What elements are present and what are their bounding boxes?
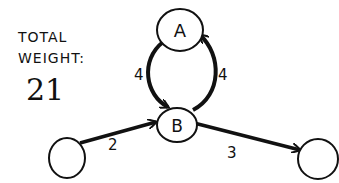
edge-weight-b-right: 3	[227, 144, 237, 162]
node-left	[49, 138, 85, 178]
total-weight-value: 21	[26, 72, 64, 107]
edge-weight-a-b: 4	[134, 66, 144, 84]
edge-weight-left-b: 2	[108, 136, 118, 154]
node-b: B	[157, 108, 197, 142]
edge-left-to-b	[80, 122, 156, 143]
graph-diagram: TOTAL WEIGHT: 21 4 4 2 3 A B	[0, 0, 339, 183]
edge-b-to-a	[193, 35, 216, 110]
edge-b-to-right	[194, 123, 300, 150]
node-right	[298, 139, 338, 179]
node-a-label: A	[174, 20, 187, 41]
edge-weight-b-a: 4	[218, 66, 228, 84]
edge-a-to-b	[148, 42, 168, 107]
caption-line2: WEIGHT:	[18, 50, 85, 66]
node-a: A	[157, 9, 203, 51]
caption-line1: TOTAL	[17, 29, 67, 45]
node-b-label: B	[171, 116, 183, 136]
